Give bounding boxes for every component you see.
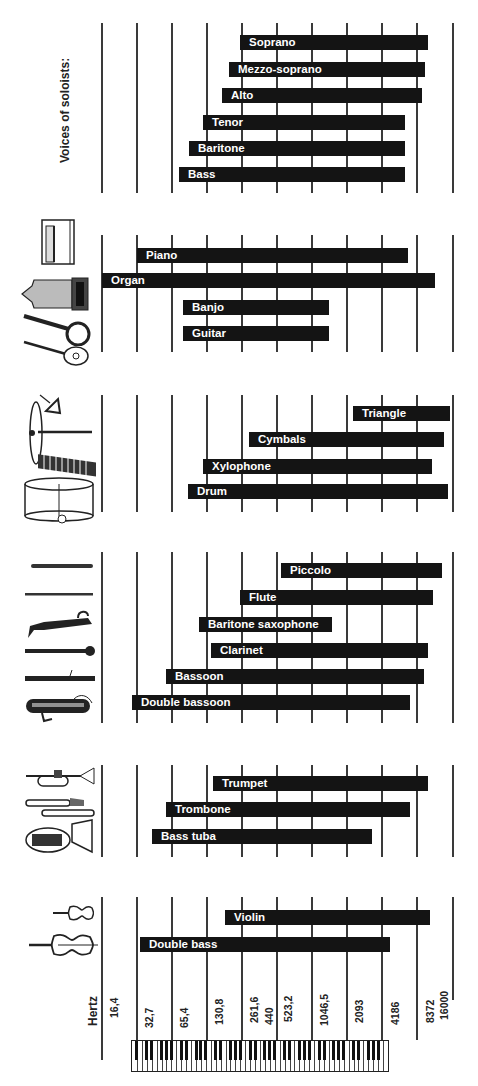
gridline xyxy=(101,235,103,352)
bar-label: Trombone xyxy=(175,802,231,817)
tick-261-6: 261,6 xyxy=(248,997,260,1023)
tick-130-8: 130,8 xyxy=(213,999,225,1025)
tick-1046-5: 1046,5 xyxy=(318,994,330,1026)
gridline xyxy=(136,23,138,193)
black-key xyxy=(337,1041,340,1060)
piano-keyboard-graphic xyxy=(131,1040,389,1072)
gridline xyxy=(241,1000,243,1040)
bar-label: Flute xyxy=(249,590,276,605)
tick-32-7: 32,7 xyxy=(143,1008,155,1028)
black-key xyxy=(214,1041,217,1060)
axis-title-hertz: Hertz xyxy=(86,996,100,1026)
baritone-saxophone-icon xyxy=(24,608,96,642)
gridline xyxy=(311,1000,313,1040)
bar-guitar: Guitar xyxy=(183,326,329,341)
black-key xyxy=(145,1041,148,1060)
bar-piccolo: Piccolo xyxy=(281,563,442,578)
tick-16000: 16000 xyxy=(438,991,450,1020)
gridline xyxy=(136,765,138,857)
bar-tenor: Tenor xyxy=(203,115,405,130)
gridline xyxy=(416,235,418,352)
bar-label: Tenor xyxy=(212,115,243,130)
bar-label: Clarinet xyxy=(220,643,263,658)
violin-icon xyxy=(52,904,94,922)
bassoon-icon xyxy=(24,668,96,684)
bar-label: Bass xyxy=(188,167,216,182)
black-key xyxy=(323,1041,326,1060)
black-key xyxy=(352,1041,355,1060)
guitar-icon xyxy=(22,336,92,366)
bar-organ: Organ xyxy=(102,273,435,288)
black-key xyxy=(332,1041,335,1060)
bass-tuba-icon xyxy=(22,818,96,854)
tick-4186: 4186 xyxy=(389,1002,401,1025)
organ-icon xyxy=(20,276,90,312)
tick-523-2: 523,2 xyxy=(282,996,294,1022)
bar-label: Violin xyxy=(234,910,265,925)
bar-label: Double bassoon xyxy=(141,695,230,710)
gridline xyxy=(452,23,454,193)
white-key xyxy=(383,1041,384,1071)
bar-cymbals: Cymbals xyxy=(249,432,444,447)
bar-label: Xylophone xyxy=(212,459,271,474)
black-key xyxy=(283,1041,286,1060)
clarinet-icon xyxy=(24,646,96,656)
bar-triangle: Triangle xyxy=(353,406,450,421)
piano-icon xyxy=(40,218,76,268)
bar-bass-tuba: Bass tuba xyxy=(152,829,372,844)
gridline xyxy=(101,23,103,193)
bar-soprano: Soprano xyxy=(240,35,428,50)
gridline xyxy=(206,1000,208,1040)
white-key xyxy=(260,1041,261,1071)
black-key xyxy=(180,1041,183,1060)
black-key xyxy=(342,1041,345,1060)
bar-piano: Piano xyxy=(137,248,408,263)
drum-icon xyxy=(22,476,96,526)
gridline xyxy=(171,395,173,512)
bar-label: Piccolo xyxy=(290,563,331,578)
white-key xyxy=(245,1041,246,1071)
black-key xyxy=(254,1041,257,1060)
tick-440: 440 xyxy=(263,1007,275,1025)
trumpet-icon xyxy=(24,766,96,790)
black-key xyxy=(372,1041,375,1060)
bar-label: Mezzo-soprano xyxy=(238,62,322,77)
white-key xyxy=(176,1041,177,1071)
bar-label: Alto xyxy=(231,88,253,103)
piccolo-icon xyxy=(30,562,94,570)
black-key xyxy=(150,1041,153,1060)
bar-label: Drum xyxy=(197,484,227,499)
tick-8372: 8372 xyxy=(424,1000,436,1023)
voices-section-title: Voices of soloists: xyxy=(58,58,72,163)
black-key xyxy=(357,1041,360,1060)
bar-bassoon: Bassoon xyxy=(166,669,424,684)
bar-baritone: Baritone xyxy=(189,141,405,156)
black-key xyxy=(367,1041,370,1060)
bar-label: Baritone saxophone xyxy=(208,617,319,632)
bar-baritone-saxophone: Baritone saxophone xyxy=(199,617,332,632)
double-bass-icon xyxy=(28,932,98,958)
white-key xyxy=(349,1041,350,1071)
gridline xyxy=(452,235,454,352)
black-key xyxy=(165,1041,168,1060)
gridline xyxy=(452,897,454,1000)
black-key xyxy=(308,1041,311,1060)
bar-bass: Bass xyxy=(179,167,405,182)
bar-label: Trumpet xyxy=(222,776,267,791)
white-key xyxy=(157,1041,158,1071)
black-key xyxy=(377,1041,380,1060)
bar-violin: Violin xyxy=(225,910,430,925)
gridline xyxy=(101,897,103,1000)
bar-mezzo-soprano: Mezzo-soprano xyxy=(229,62,425,77)
bar-banjo: Banjo xyxy=(183,300,329,315)
gridline xyxy=(136,1000,138,1040)
bar-label: Piano xyxy=(146,248,177,263)
black-key xyxy=(268,1041,271,1060)
bar-label: Organ xyxy=(111,273,145,288)
black-key xyxy=(204,1041,207,1060)
gridline xyxy=(101,395,103,512)
gridline xyxy=(101,765,103,857)
black-key xyxy=(273,1041,276,1060)
black-key xyxy=(229,1041,232,1060)
bar-label: Bass tuba xyxy=(161,829,216,844)
